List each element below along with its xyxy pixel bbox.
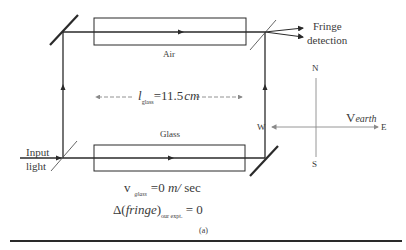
bottom-right-mirror bbox=[250, 146, 278, 176]
input-label-1: Input bbox=[26, 146, 49, 158]
output-beam-splitter bbox=[250, 20, 276, 50]
top-left-mirror bbox=[50, 15, 78, 45]
compass-north: N bbox=[312, 63, 319, 73]
compass-south: S bbox=[312, 159, 317, 169]
compass-east: E bbox=[381, 122, 387, 132]
earth-velocity-label: Vearth bbox=[346, 110, 377, 126]
delta-fringe-equation: Δ(fringe)our expt. = 0 bbox=[113, 202, 203, 219]
fringe-label-1: Fringe bbox=[313, 20, 342, 32]
bottom-divider bbox=[10, 240, 402, 242]
input-label-2: light bbox=[26, 160, 46, 172]
v-glass-equation: vglass=0 m/ sec bbox=[124, 180, 201, 197]
caption: (a) bbox=[199, 226, 208, 235]
fringe-label-2: detection bbox=[307, 34, 347, 46]
air-label: Air bbox=[163, 49, 175, 59]
length-label: lglass=11.5cm bbox=[138, 88, 199, 105]
input-beam-splitter bbox=[51, 141, 77, 171]
compass-west: W bbox=[257, 122, 266, 132]
glass-label: Glass bbox=[160, 129, 180, 139]
